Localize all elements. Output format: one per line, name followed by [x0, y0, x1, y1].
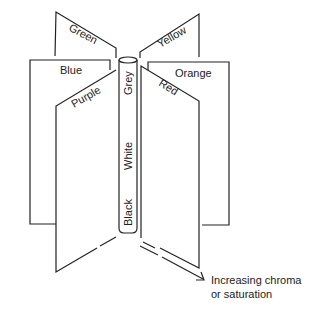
label-green: Green	[67, 21, 100, 46]
label-grey: Grey	[122, 71, 134, 95]
label-red: Red	[157, 77, 180, 98]
arrow-caption-line1: Increasing chroma	[211, 274, 302, 286]
panel-purple: Purple	[56, 70, 116, 272]
panel-green: Green	[55, 12, 116, 58]
panel-yellow: Yellow	[140, 14, 199, 58]
chroma-arrow	[140, 242, 204, 280]
label-black: Black	[122, 199, 134, 226]
arrow-caption-line2: or saturation	[211, 288, 272, 300]
label-purple: Purple	[69, 83, 103, 109]
label-orange: Orange	[175, 67, 212, 79]
label-white: White	[122, 142, 134, 170]
color-solid-diagram: Green Blue Purple Yellow Orange Red Grey…	[0, 0, 310, 310]
label-blue: Blue	[60, 64, 82, 76]
label-yellow: Yellow	[155, 24, 188, 50]
panel-blue: Blue	[30, 60, 110, 224]
lightness-axis-cylinder: Grey White Black	[119, 57, 137, 233]
panel-red: Red	[141, 66, 199, 268]
